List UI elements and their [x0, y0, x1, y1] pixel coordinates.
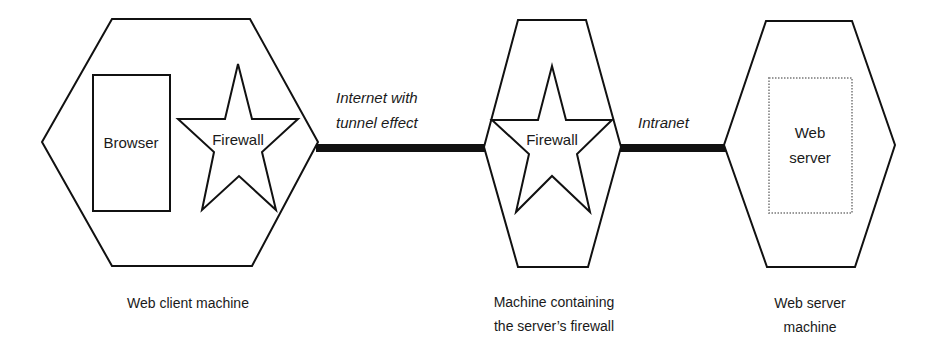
web-server-label-line1: Web	[795, 124, 826, 141]
intranet-edge-label: Intranet	[638, 114, 690, 131]
firewall-label: Firewall	[212, 131, 264, 148]
internet-edge-label-line1: Internet with	[336, 89, 418, 106]
network-diagram: Browser Firewall Web client machine Fire…	[0, 0, 934, 354]
firewall-label: Firewall	[526, 131, 578, 148]
firewall-machine-label-line1: Machine containing	[494, 294, 615, 310]
web-client-machine-label: Web client machine	[127, 295, 249, 311]
firewall-machine-label-line2: the server’s firewall	[494, 318, 614, 334]
firewall-machine-node: Firewall Machine containing the server’s…	[484, 20, 621, 334]
web-server-machine-label-line1: Web server	[774, 295, 846, 311]
internet-edge-label-line2: tunnel effect	[336, 114, 419, 131]
browser-label: Browser	[103, 134, 158, 151]
web-server-label-line2: server	[789, 149, 831, 166]
web-server-box	[769, 78, 852, 213]
web-client-machine-node: Browser Firewall Web client machine	[42, 19, 318, 311]
web-server-machine-node: Web server Web server machine	[724, 21, 895, 335]
hexagon-shape	[42, 19, 318, 266]
web-server-machine-label-line2: machine	[784, 319, 837, 335]
